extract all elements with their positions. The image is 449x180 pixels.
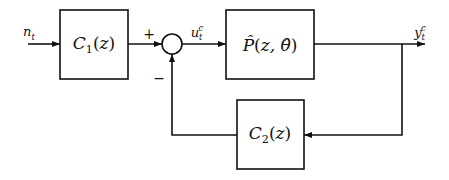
output-signal-label: ytc: [414, 24, 426, 41]
block-diagram: C1(z) P̂(z, θ̂) C2(z) nt utc ytc + −: [0, 0, 449, 180]
control-signal-label: utc: [191, 24, 204, 41]
plant-label: P̂(z, θ̂): [243, 37, 298, 54]
c2-to-sum-arrow: [172, 54, 237, 135]
c2-label: C2(z): [249, 125, 291, 145]
plus-sign: +: [143, 27, 155, 41]
minus-sign: −: [153, 71, 165, 85]
feedback-to-c2-arrow: [304, 44, 402, 135]
c1-label: C1(z): [73, 35, 115, 55]
diagram-lines: [0, 0, 449, 180]
summing-junction: [162, 34, 182, 54]
input-signal-label: nt: [23, 25, 35, 41]
